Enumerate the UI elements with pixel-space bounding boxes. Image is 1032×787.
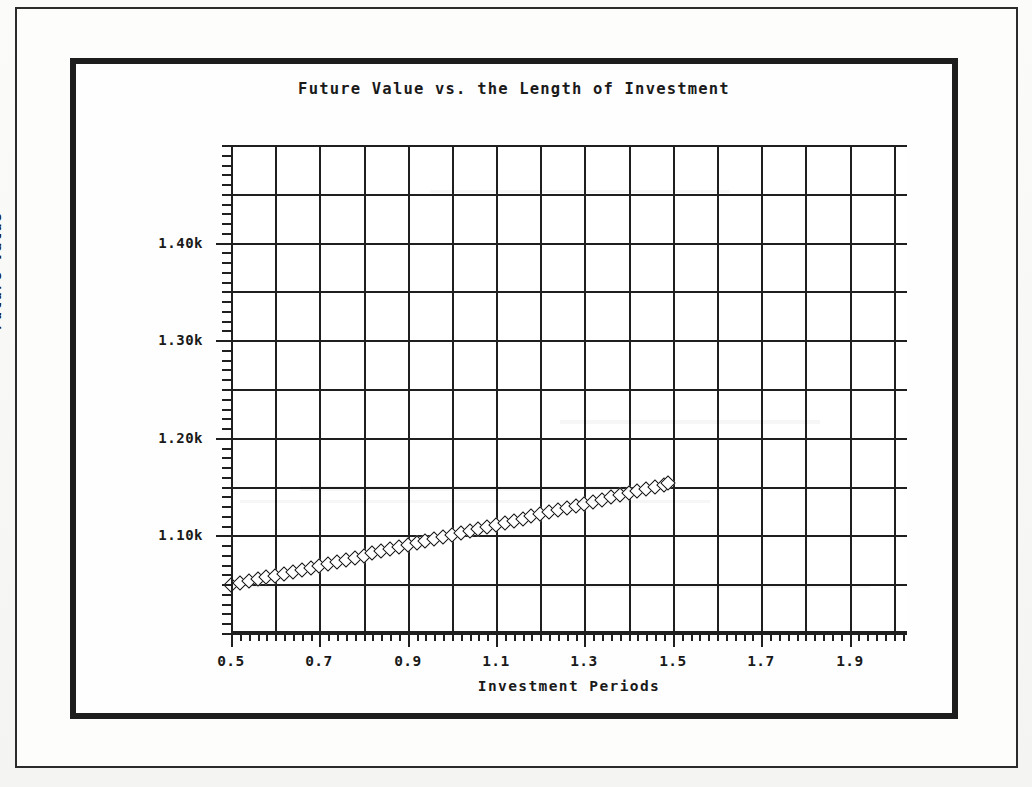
plot-frame-left [231, 145, 233, 633]
gridline-vertical [584, 145, 586, 633]
y-tick-minor [222, 526, 231, 528]
x-tick-minor [867, 633, 869, 641]
x-tick-minor [337, 633, 339, 641]
gridline-vertical [408, 145, 410, 633]
x-tick-minor [514, 633, 516, 641]
x-tick-minor [823, 633, 825, 641]
y-tick-minor [222, 467, 231, 469]
x-tick-label: 1.1 [461, 653, 531, 669]
x-tick-minor [443, 633, 445, 641]
y-tick-minor [222, 516, 231, 518]
x-tick-minor [540, 633, 542, 641]
x-tick-minor [735, 633, 737, 641]
gridline-vertical [496, 145, 498, 633]
x-tick-major [496, 633, 498, 647]
x-tick-minor [284, 633, 286, 641]
x-tick-minor [858, 633, 860, 641]
y-tick-minor [222, 448, 231, 450]
y-tick-minor [222, 379, 231, 381]
y-tick-major [216, 535, 231, 537]
y-tick-minor [222, 291, 231, 293]
y-tick-minor [222, 496, 231, 498]
x-tick-minor [832, 633, 834, 641]
x-tick-major [761, 633, 763, 647]
x-tick-label: 0.5 [196, 653, 266, 669]
x-tick-minor [841, 633, 843, 641]
x-tick-minor [699, 633, 701, 641]
y-tick-minor [222, 301, 231, 303]
x-tick-label: 0.7 [284, 653, 354, 669]
x-tick-minor [611, 633, 613, 641]
x-tick-minor [903, 633, 905, 641]
x-tick-minor [646, 633, 648, 641]
x-tick-minor [311, 633, 313, 641]
x-tick-minor [593, 633, 595, 641]
x-tick-minor [275, 633, 277, 641]
x-tick-minor [417, 633, 419, 641]
gridline-vertical [673, 145, 675, 633]
x-tick-minor [240, 633, 242, 641]
x-tick-minor [249, 633, 251, 641]
y-tick-minor [222, 204, 231, 206]
x-tick-minor [717, 633, 719, 641]
x-tick-minor [655, 633, 657, 641]
x-tick-minor [399, 633, 401, 641]
y-tick-minor [222, 184, 231, 186]
y-tick-minor [222, 155, 231, 157]
plot-frame-top [231, 145, 907, 147]
y-tick-label: 1.10k [103, 527, 203, 543]
y-tick-minor [222, 194, 231, 196]
x-tick-minor [567, 633, 569, 641]
x-tick-minor [894, 633, 896, 641]
y-tick-minor [222, 428, 231, 430]
y-tick-label: 1.30k [103, 332, 203, 348]
x-tick-minor [708, 633, 710, 641]
y-tick-minor [222, 272, 231, 274]
y-tick-minor [222, 389, 231, 391]
x-tick-minor [381, 633, 383, 641]
x-tick-minor [505, 633, 507, 641]
x-tick-label: 0.9 [373, 653, 443, 669]
x-tick-minor [576, 633, 578, 641]
y-tick-minor [222, 555, 231, 557]
x-tick-minor [682, 633, 684, 641]
y-tick-minor [222, 350, 231, 352]
y-tick-minor [222, 311, 231, 313]
y-tick-major [216, 340, 231, 342]
x-tick-major [850, 633, 852, 647]
x-tick-minor [558, 633, 560, 641]
y-tick-minor [222, 477, 231, 479]
gridline-vertical [805, 145, 807, 633]
x-tick-label: 1.7 [726, 653, 796, 669]
y-tick-label: 1.40k [103, 235, 203, 251]
gridline-vertical [629, 145, 631, 633]
x-tick-minor [478, 633, 480, 641]
x-tick-minor [258, 633, 260, 641]
x-tick-minor [876, 633, 878, 641]
y-tick-minor [222, 594, 231, 596]
chart-title: Future Value vs. the Length of Investmen… [70, 80, 958, 98]
x-tick-minor [266, 633, 268, 641]
y-tick-minor [222, 633, 231, 635]
x-tick-minor [726, 633, 728, 641]
y-tick-minor [222, 399, 231, 401]
x-tick-minor [452, 633, 454, 641]
y-tick-minor [222, 330, 231, 332]
x-tick-minor [770, 633, 772, 641]
y-tick-minor [222, 321, 231, 323]
x-tick-minor [487, 633, 489, 641]
gridline-vertical [894, 145, 896, 633]
x-tick-minor [664, 633, 666, 641]
y-tick-minor [222, 545, 231, 547]
x-tick-minor [346, 633, 348, 641]
plot-area [231, 145, 907, 633]
x-tick-minor [752, 633, 754, 641]
y-tick-label: 1.20k [103, 430, 203, 446]
x-tick-minor [814, 633, 816, 641]
gridline-vertical [761, 145, 763, 633]
y-tick-minor [222, 409, 231, 411]
x-axis-title: Investment Periods [231, 678, 907, 694]
y-tick-minor [222, 574, 231, 576]
y-tick-minor [222, 623, 231, 625]
gridline-vertical [452, 145, 454, 633]
